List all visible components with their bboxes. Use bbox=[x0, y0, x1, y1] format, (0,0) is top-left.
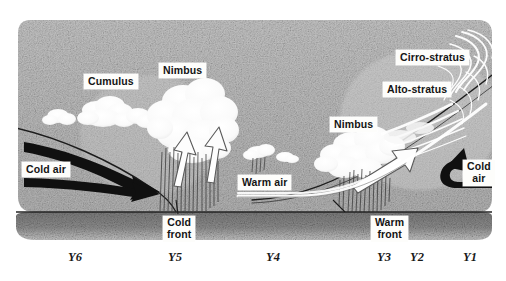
cloud-label-nimbus-left: Nimbus bbox=[159, 63, 206, 78]
front-label-warm-front: Warm front bbox=[371, 216, 408, 242]
cloud-label-cumulus: Cumulus bbox=[84, 74, 138, 89]
cloud-label-nimbus-right: Nimbus bbox=[330, 117, 377, 132]
axis-label-y4: Y4 bbox=[266, 250, 280, 264]
axis-label-y5: Y5 bbox=[168, 250, 182, 264]
air-mass-label-cold-air-right: Cold air bbox=[463, 160, 495, 186]
axis-label-y3: Y3 bbox=[377, 250, 391, 264]
ground-region bbox=[16, 212, 492, 240]
cloud-label-cirro-stratus: Cirro-stratus bbox=[396, 50, 469, 65]
air-mass-label-cold-air-left: Cold air bbox=[22, 162, 70, 177]
diagram-canvas bbox=[0, 0, 506, 281]
axis-label-y2: Y2 bbox=[410, 250, 424, 264]
axis-label-y6: Y6 bbox=[68, 250, 82, 264]
axis-label-y1: Y1 bbox=[463, 250, 477, 264]
cloud-label-alto-stratus: Alto-stratus bbox=[383, 82, 451, 97]
front-label-cold-front: Cold front bbox=[163, 216, 195, 242]
weather-cross-section-figure bbox=[0, 0, 506, 281]
air-mass-label-warm-air: Warm air bbox=[238, 175, 291, 190]
